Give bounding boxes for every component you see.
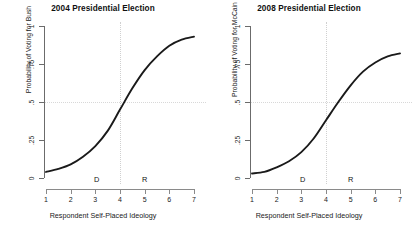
x-tick-3 [301,189,302,194]
x-tick-label-6: 6 [368,196,382,203]
x-tick-6 [375,189,376,194]
y-tick-05 [245,102,250,103]
x-tick-2 [277,189,278,194]
x-tick-label-2: 2 [64,196,78,203]
x-axis-title: Respondent Self-Placed Ideology [0,211,206,220]
y-tick-1 [245,26,250,27]
x-tick-6 [169,189,170,194]
x-tick-label-1: 1 [245,196,259,203]
y-tick-075 [39,64,44,65]
x-axis-title: Respondent Self-Placed Ideology [206,211,412,220]
y-tick-1 [39,26,44,27]
y-tick-label-0: 0 [28,172,35,186]
x-tick-7 [400,189,401,194]
y-tick-0 [39,178,44,179]
panel-2008: 2008 Presidential Election Probability o… [206,0,412,236]
x-tick-label-1: 1 [39,196,53,203]
y-tick-label-075: .75 [234,58,241,72]
x-tick-5 [351,189,352,194]
x-tick-5 [145,189,146,194]
probability-curve [46,26,194,178]
x-tick-4 [326,189,327,194]
x-tick-label-3: 3 [88,196,102,203]
y-tick-05 [39,102,44,103]
y-tick-label-1: 1 [28,20,35,34]
x-tick-label-5: 5 [138,196,152,203]
y-tick-0 [245,178,250,179]
y-tick-025 [39,140,44,141]
x-tick-label-7: 7 [187,196,201,203]
x-tick-7 [194,189,195,194]
y-tick-075 [245,64,250,65]
x-tick-3 [95,189,96,194]
x-tick-label-5: 5 [344,196,358,203]
probability-curve [252,26,400,178]
x-tick-1 [252,189,253,194]
y-tick-label-025: .25 [28,134,35,148]
y-tick-label-025: .25 [234,134,241,148]
party-marker-democrat: D [296,175,310,184]
party-marker-republican: R [344,175,358,184]
x-tick-4 [120,189,121,194]
y-tick-label-1: 1 [234,20,241,34]
x-tick-label-4: 4 [319,196,333,203]
y-tick-label-05: .5 [234,96,241,110]
plot-area [46,26,194,178]
x-tick-label-2: 2 [270,196,284,203]
x-tick-label-6: 6 [162,196,176,203]
x-tick-label-3: 3 [294,196,308,203]
plot-area [252,26,400,178]
y-tick-label-0: 0 [234,172,241,186]
two-panel-figure: 2004 Presidential Election Probability o… [0,0,412,236]
x-tick-label-7: 7 [393,196,407,203]
y-tick-label-075: .75 [28,58,35,72]
panel-2004: 2004 Presidential Election Probability o… [0,0,206,236]
x-tick-2 [71,189,72,194]
y-tick-025 [245,140,250,141]
x-tick-1 [46,189,47,194]
y-tick-label-05: .5 [28,96,35,110]
party-marker-republican: R [138,175,152,184]
x-tick-label-4: 4 [113,196,127,203]
party-marker-democrat: D [90,175,104,184]
